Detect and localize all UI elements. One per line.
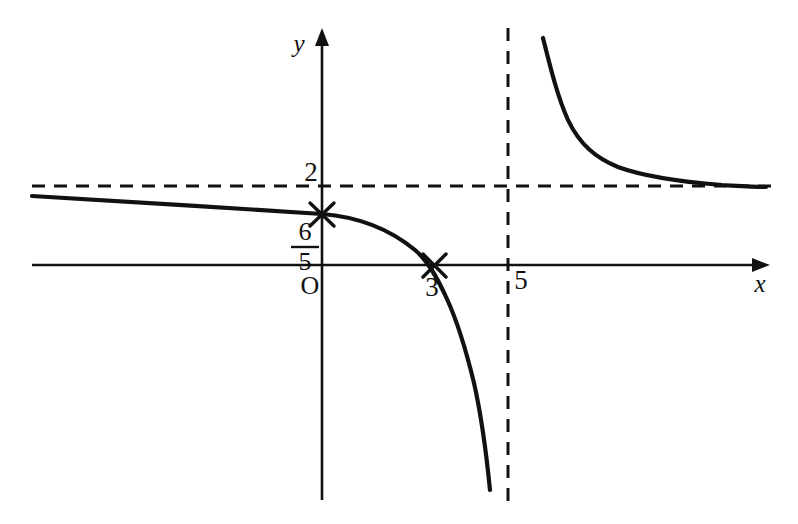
fraction-numerator: 6 — [299, 217, 312, 246]
graph-figure: y x O 2 5 3 6 5 — [0, 0, 798, 524]
x-axis-label: x — [753, 270, 765, 297]
x-tick-label-3: 3 — [425, 272, 439, 302]
y-axis-label: y — [290, 30, 305, 57]
plot-background — [0, 0, 798, 524]
x-tick-label-5: 5 — [514, 265, 528, 295]
coordinate-plot: y x O 2 5 3 6 5 — [0, 0, 798, 524]
fraction-denominator: 5 — [299, 247, 312, 276]
y-tick-label-2: 2 — [304, 157, 318, 187]
